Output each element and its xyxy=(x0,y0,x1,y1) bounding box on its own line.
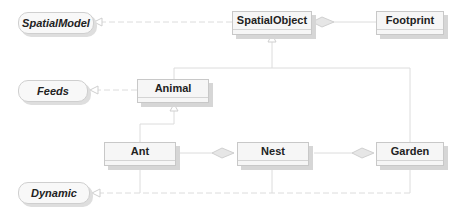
interface-spatialmodel[interactable]: SpatialModel xyxy=(18,12,94,34)
class-title: Garden xyxy=(377,143,443,161)
realization-arrowhead-icon xyxy=(94,18,102,26)
class-title: Nest xyxy=(238,143,308,161)
class-title: SpatialObject xyxy=(233,12,311,30)
class-title: Ant xyxy=(105,143,175,161)
realization-arrowhead-icon xyxy=(92,189,100,197)
class-spatialobject[interactable]: SpatialObject xyxy=(232,11,312,35)
class-ant[interactable]: Ant xyxy=(104,142,176,166)
generalization-arrowhead-icon xyxy=(268,34,276,42)
class-animal[interactable]: Animal xyxy=(137,79,209,103)
realization-arrowhead-icon xyxy=(90,86,98,94)
aggregation-diamond-icon xyxy=(212,148,234,158)
class-title: Animal xyxy=(138,80,208,98)
interface-label: SpatialModel xyxy=(22,17,90,29)
generalization-arrowhead-icon xyxy=(170,104,178,111)
class-garden[interactable]: Garden xyxy=(376,142,444,166)
uml-class-diagram: SpatialModel Feeds Dynamic SpatialObject… xyxy=(0,0,468,223)
aggregation-diamond-icon xyxy=(352,148,374,158)
class-title: Footprint xyxy=(377,12,443,30)
interface-label: Feeds xyxy=(37,85,69,97)
interface-label: Dynamic xyxy=(31,187,77,199)
class-footprint[interactable]: Footprint xyxy=(376,11,444,35)
interface-dynamic[interactable]: Dynamic xyxy=(18,182,90,204)
class-nest[interactable]: Nest xyxy=(237,142,309,166)
interface-feeds[interactable]: Feeds xyxy=(18,80,88,102)
aggregation-diamond-icon xyxy=(312,17,334,27)
